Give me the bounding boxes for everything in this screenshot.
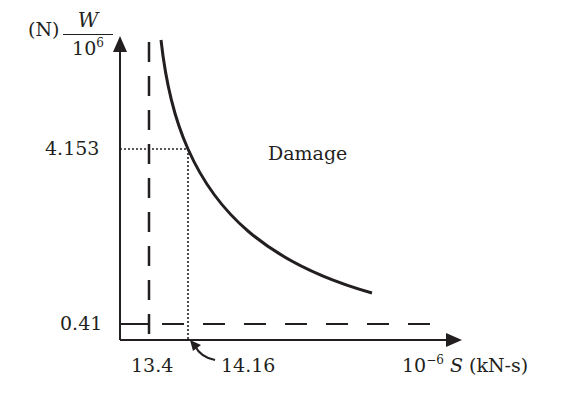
reference-lines	[120, 149, 188, 340]
y-axis-unit: (N)	[28, 20, 59, 39]
diagram-canvas	[0, 0, 569, 400]
y-tick-4153: 4.153	[45, 139, 99, 158]
x-tick-1416: 14.16	[221, 356, 275, 375]
x-unit: (kN-s)	[469, 354, 528, 376]
damage-curve	[161, 40, 372, 293]
x-axis-label: 10−6 S (kN-s)	[402, 356, 528, 375]
x-prefix-exponent: −6	[426, 353, 444, 367]
y-axis-numerator: W	[63, 8, 113, 34]
x-variable: S	[450, 354, 463, 376]
x-prefix-base: 10	[402, 354, 426, 376]
denominator-base: 10	[72, 37, 96, 59]
denominator-exponent: 6	[96, 36, 104, 50]
y-axis-denominator: 106	[63, 35, 113, 59]
y-axis	[113, 36, 127, 340]
x-axis-arrow-icon	[446, 333, 462, 347]
x-tick-134: 13.4	[131, 356, 173, 375]
y-axis-arrow-icon	[113, 36, 127, 52]
pointer-arrow-icon	[190, 340, 215, 360]
y-axis-label: W 106	[63, 8, 113, 59]
y-tick-041: 0.41	[60, 314, 102, 333]
damage-region-label: Damage	[268, 144, 347, 163]
damage-diagram: (N) W 106 4.153 0.41 13.4 14.16 10−6 S (…	[0, 0, 569, 400]
x-axis	[120, 333, 462, 347]
